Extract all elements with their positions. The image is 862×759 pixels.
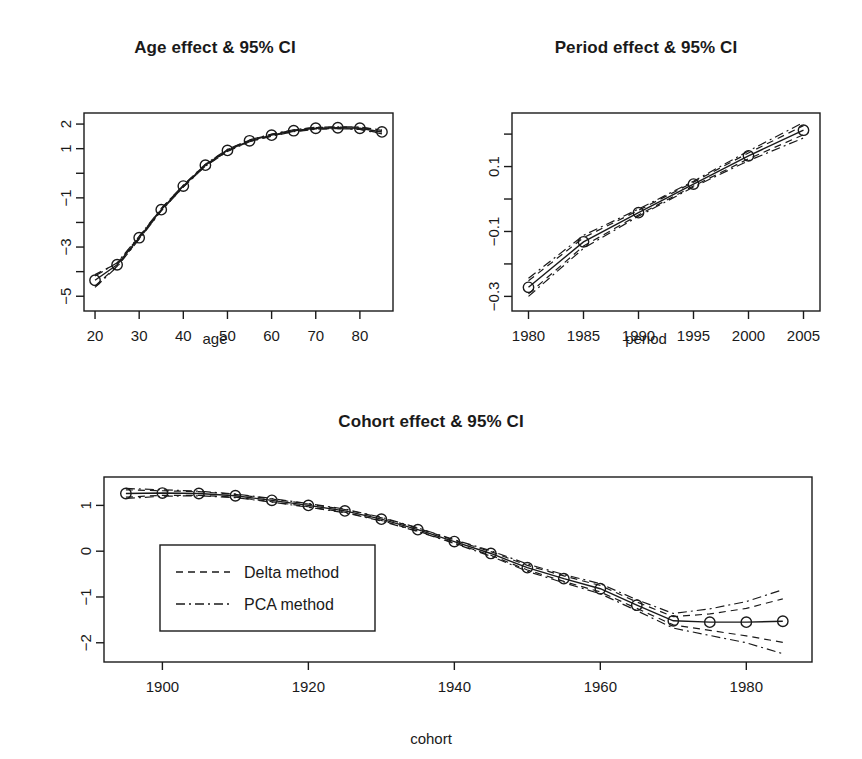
series-pca-method-lower [95, 129, 382, 288]
period-panel: Period effect & 95% CI 19801985199019952… [430, 20, 862, 400]
series-pca-method-upper [95, 127, 382, 276]
age-panel: Age effect & 95% CI 2030405060708021−1−3… [0, 20, 430, 400]
y-tick-label: 0 [78, 547, 95, 555]
cohort-legend: Delta methodPCA method [160, 545, 375, 631]
x-tick-label: 1980 [730, 678, 763, 695]
y-tick-label: 1 [58, 144, 75, 152]
y-tick-label: −2 [78, 634, 95, 651]
period-x-axis-label: period [430, 330, 862, 347]
age-x-axis-label: age [0, 330, 430, 347]
series-delta-method-lower [529, 135, 804, 294]
x-tick-label: 1920 [292, 678, 325, 695]
legend-label: Delta method [244, 564, 339, 581]
x-tick-label: 1960 [584, 678, 617, 695]
cohort-plot-area: 1900192019401960198010−1−2Delta methodPC… [0, 440, 862, 730]
y-tick-label: −1 [78, 588, 95, 605]
series-delta-method-upper [95, 127, 382, 275]
cohort-x-axis-label: cohort [0, 730, 862, 747]
plot-box [84, 113, 393, 311]
y-tick-label: −1 [58, 189, 75, 206]
series-pca-method-lower [529, 138, 804, 296]
period-panel-title: Period effect & 95% CI [430, 38, 862, 58]
plot-box [512, 113, 820, 311]
legend-label: PCA method [244, 596, 334, 613]
series-delta-method-lower [95, 129, 382, 286]
y-tick-label: −5 [58, 288, 75, 305]
period-plot-area: 1980198519901995200020050.1−0.1−0.3 [430, 60, 862, 360]
age-plot-area: 2030405060708021−1−3−5 [0, 60, 430, 360]
y-tick-label: −3 [58, 238, 75, 255]
y-tick-label: 1 [78, 501, 95, 509]
cohort-panel: Cohort effect & 95% CI 19001920194019601… [0, 400, 862, 759]
series-estimate [529, 130, 804, 287]
y-tick-label: 0.1 [486, 156, 503, 177]
x-tick-label: 1900 [146, 678, 179, 695]
y-tick-label: −0.3 [486, 282, 503, 312]
legend-box [160, 545, 375, 631]
y-tick-label: 2 [58, 120, 75, 128]
x-tick-label: 1940 [438, 678, 471, 695]
series-estimate [95, 128, 382, 280]
cohort-panel-title: Cohort effect & 95% CI [0, 412, 862, 432]
age-panel-title: Age effect & 95% CI [0, 38, 430, 58]
y-tick-label: −0.1 [486, 217, 503, 247]
